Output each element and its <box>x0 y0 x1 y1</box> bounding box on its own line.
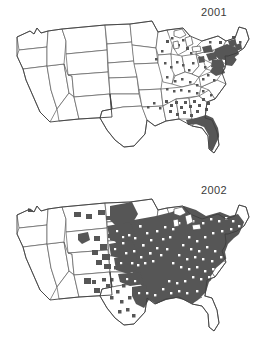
us-map-svg-2002 <box>6 192 259 348</box>
us-map-2001 <box>6 14 259 170</box>
us-map-svg-2001 <box>6 14 259 170</box>
map-panel-2001: 2001 <box>0 2 265 172</box>
map-panel-2002: 2002 <box>0 180 265 350</box>
us-map-2002 <box>6 192 259 348</box>
west-nile-virus-map-figure: 2001 <box>0 0 265 353</box>
